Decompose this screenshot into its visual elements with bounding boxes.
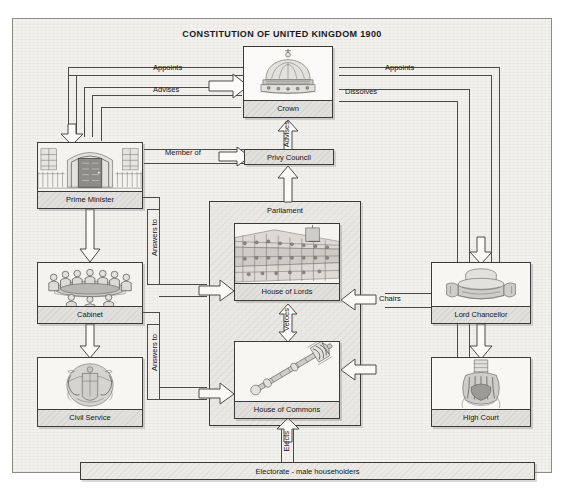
arrowhead-lord-chancellor-high-court xyxy=(469,324,493,360)
node-civil-service[interactable]: Civil Service xyxy=(37,357,143,427)
downing-street-door-illustration xyxy=(38,143,142,192)
node-prime-minister-caption: Prime Minister xyxy=(38,191,142,208)
line-answers-lords-jointop xyxy=(147,209,159,210)
lords-chamber-illustration xyxy=(235,224,339,284)
edge-label-answers-to-commons: Answers to xyxy=(150,334,159,371)
line-advises-left-down xyxy=(84,87,85,137)
node-electorate[interactable]: Electorate - male householders xyxy=(80,462,535,480)
edge-label-chairs: Chairs xyxy=(379,294,401,303)
arrowhead-parliament-privy-council xyxy=(277,165,299,203)
node-crown[interactable]: Crown xyxy=(243,46,333,118)
edge-label-answers-to-lords: Answers to xyxy=(150,219,159,256)
line-advises-rail3-down xyxy=(101,107,102,141)
arrowhead-chairs-house-of-lords xyxy=(340,289,376,311)
node-house-of-lords-caption: House of Lords xyxy=(235,283,339,300)
node-high-court[interactable]: High Court xyxy=(431,357,531,427)
line-answers-commons-v2 xyxy=(159,312,160,399)
line-answers-lords-v2 xyxy=(159,197,160,284)
line-advises-rail3 xyxy=(101,107,241,108)
ceremonial-mace-illustration xyxy=(235,342,339,402)
line-appoints-right-top2 xyxy=(339,75,491,76)
node-house-of-commons[interactable]: House of Commons xyxy=(234,341,340,419)
node-lord-chancellor[interactable]: Lord Chancellor xyxy=(431,262,531,324)
royal-arms-illustration xyxy=(38,358,142,410)
arrowhead-answers-to-house-of-lords xyxy=(199,280,235,302)
edge-label-elects: Elects xyxy=(282,431,291,451)
arrowhead-appoints-lord-chancellor xyxy=(469,237,493,265)
line-answers-lords-v1 xyxy=(147,209,148,284)
edge-label-appoints-left: Appoints xyxy=(153,63,182,72)
node-crown-caption: Crown xyxy=(244,100,332,117)
group-parliament-title: Parliament xyxy=(210,206,360,215)
node-house-of-commons-caption: House of Commons xyxy=(235,401,339,418)
node-lord-chancellor-caption: Lord Chancellor xyxy=(432,306,530,323)
line-answers-commons-h1 xyxy=(147,399,207,400)
line-appoints-right-down2 xyxy=(491,75,492,262)
line-answers-commons-jointop xyxy=(147,324,159,325)
line-advises-left-down2 xyxy=(92,95,93,137)
arrowhead-prime-minister-cabinet xyxy=(79,209,101,263)
arrowhead-dissolves-house-of-commons xyxy=(340,359,376,381)
line-chairs-bottom xyxy=(385,307,433,308)
diagram-paper: CONSTITUTION OF UNITED KINGDOM 1900 xyxy=(12,18,552,473)
edge-label-advises-left: Advises xyxy=(153,85,179,94)
woolsack-illustration xyxy=(432,263,530,307)
line-dissolves-top2 xyxy=(339,101,457,102)
line-appoints-right-down xyxy=(499,67,500,262)
node-house-of-lords[interactable]: House of Lords xyxy=(234,223,340,301)
line-answers-commons-v1 xyxy=(147,324,148,399)
node-cabinet[interactable]: Cabinet xyxy=(37,262,143,324)
line-answers-lords-h1 xyxy=(147,284,207,285)
node-privy-council[interactable]: Privy Council xyxy=(244,149,334,165)
edge-label-member-of: Member of xyxy=(165,148,201,157)
arrowhead-answers-to-house-of-commons xyxy=(199,383,235,405)
line-appoints-right-top xyxy=(339,67,499,68)
cabinet-table-illustration xyxy=(38,263,142,307)
arrowhead-cabinet-civil-service xyxy=(79,324,101,359)
edge-label-appoints-right: Appoints xyxy=(385,63,414,72)
judge-wig-illustration xyxy=(432,358,530,410)
node-civil-service-caption: Civil Service xyxy=(38,409,142,426)
edge-label-advises-up: Advises xyxy=(282,121,291,147)
node-high-court-caption: High Court xyxy=(432,409,530,426)
edge-label-dissolves: Dissolves xyxy=(345,87,377,96)
diagram-canvas: CONSTITUTION OF UNITED KINGDOM 1900 xyxy=(0,0,564,497)
crown-illustration xyxy=(244,47,332,101)
node-prime-minister[interactable]: Prime Minister xyxy=(37,142,143,209)
diagram-title: CONSTITUTION OF UNITED KINGDOM 1900 xyxy=(13,29,551,39)
node-cabinet-caption: Cabinet xyxy=(38,306,142,323)
line-dissolves-down2 xyxy=(457,101,458,369)
edge-label-vetoes: Vetoes xyxy=(282,308,291,331)
